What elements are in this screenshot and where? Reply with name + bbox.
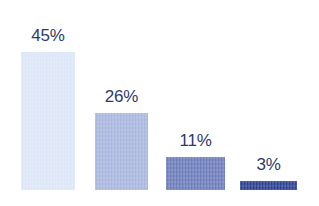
plot-area: 45% 26% 11% 3% [0, 0, 319, 206]
bar-group-2 [95, 113, 148, 190]
bar-value-label-1: 45% [31, 27, 64, 44]
bar-1 [21, 52, 75, 190]
bar-2 [95, 113, 148, 190]
bar-group-3 [166, 157, 225, 190]
bar-value-label-4: 3% [256, 156, 280, 173]
bar-chart: 45% 26% 11% 3% [0, 0, 319, 206]
bar-group-1 [21, 52, 75, 190]
bar-value-label-2: 26% [105, 88, 138, 105]
bar-value-label-3: 11% [179, 132, 211, 149]
bar-3 [166, 157, 225, 190]
bar-group-4 [240, 181, 297, 190]
bar-4 [240, 181, 297, 190]
